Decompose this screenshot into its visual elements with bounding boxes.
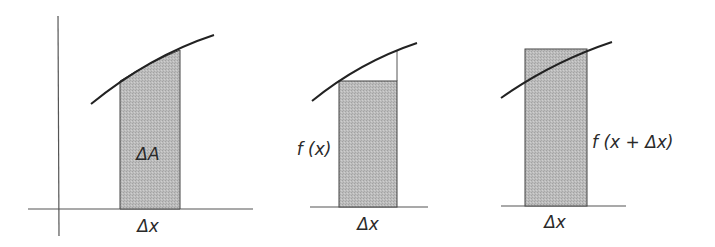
riemann-strip-diagram: ΔA Δx f (x) Δx f (x + Δx) Δx <box>0 0 715 247</box>
panel-lower-rectangle: f (x) Δx <box>297 43 428 234</box>
width-label: Δx <box>542 212 567 232</box>
width-label: Δx <box>355 214 380 234</box>
panel-upper-rectangle: f (x + Δx) Δx <box>501 42 673 232</box>
panel-exact-area: ΔA Δx <box>28 16 253 236</box>
lower-rectangle <box>339 81 397 207</box>
upper-rectangle <box>525 49 587 206</box>
y-axis <box>58 16 59 236</box>
area-label: ΔA <box>134 144 159 164</box>
area-strip <box>120 50 180 209</box>
width-label: Δx <box>135 216 160 236</box>
height-label: f (x + Δx) <box>592 132 673 152</box>
height-label: f (x) <box>297 139 332 159</box>
